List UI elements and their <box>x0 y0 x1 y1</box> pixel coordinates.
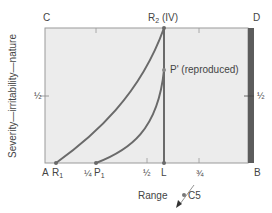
right-dark-bar <box>248 28 254 163</box>
tick-label-half: ½ <box>143 168 151 178</box>
x-axis-label: Range <box>138 191 167 201</box>
r1-sub: 1 <box>59 172 63 179</box>
point-l <box>162 161 166 165</box>
diagram-canvas <box>0 0 272 213</box>
corner-a: A <box>42 168 49 178</box>
c5-dot <box>182 193 186 197</box>
label-l: L <box>161 168 167 178</box>
label-p1: P1 <box>94 168 105 178</box>
plot-box <box>45 28 248 163</box>
r2-suffix: (IV) <box>159 12 178 23</box>
right-half-label: ½ <box>257 91 265 101</box>
left-half-label: ½ <box>34 91 42 101</box>
y-axis-label: Severity—irritability—nature <box>7 34 18 158</box>
point-r1 <box>54 161 58 165</box>
tick-label-three-quarter: ¾ <box>196 168 204 178</box>
point-pprime <box>162 68 166 72</box>
corner-c: C <box>43 13 50 23</box>
corner-b: B <box>254 168 261 178</box>
c5-arrowhead-icon <box>176 200 182 208</box>
corner-d: D <box>253 13 260 23</box>
point-r2 <box>162 26 166 30</box>
p1-name: P <box>94 167 101 178</box>
label-r2: R2 (IV) <box>148 13 178 23</box>
tick-label-quarter: ¼ <box>84 168 92 178</box>
point-p1 <box>94 161 98 165</box>
label-r1: R1 <box>52 168 63 178</box>
c5-label: C5 <box>188 191 201 201</box>
p1-sub: 1 <box>101 172 105 179</box>
label-pprime: P' (reproduced) <box>170 65 239 75</box>
